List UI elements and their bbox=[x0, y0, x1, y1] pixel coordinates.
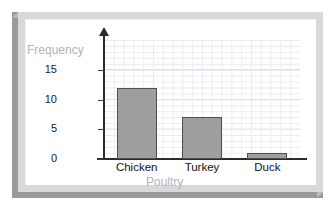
frame-corner-top-left bbox=[12, 12, 18, 18]
x-tick-label: Chicken bbox=[104, 162, 169, 174]
bar bbox=[247, 153, 287, 159]
x-axis-title: Poultry bbox=[146, 176, 183, 188]
y-tick-label: 15 bbox=[17, 64, 57, 75]
y-tick-label: 5 bbox=[17, 123, 57, 134]
bar bbox=[182, 117, 222, 159]
x-tick-label: Turkey bbox=[169, 162, 234, 174]
x-tick-label: Duck bbox=[235, 162, 300, 174]
y-axis-arrow-icon bbox=[99, 27, 109, 36]
y-tick-label: 10 bbox=[17, 94, 57, 105]
y-tick-mark bbox=[98, 159, 105, 160]
y-axis-title: Frequency bbox=[27, 44, 84, 56]
bars-layer bbox=[104, 40, 300, 159]
y-tick-label: 0 bbox=[17, 153, 57, 164]
bar bbox=[117, 88, 157, 159]
bar-chart: Frequency 051015 ChickenTurkeyDuck Poult… bbox=[25, 19, 324, 191]
frame-corner-bottom-right bbox=[317, 192, 323, 198]
